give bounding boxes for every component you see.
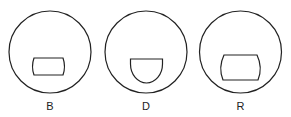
- label-d: D: [142, 100, 150, 112]
- pupil-shapes-diagram: B D R: [0, 0, 291, 117]
- figure-r: [200, 11, 282, 93]
- shape-barrel: [221, 55, 261, 80]
- label-b: B: [46, 100, 53, 112]
- figure-b: [9, 11, 91, 93]
- label-r: R: [237, 100, 245, 112]
- outer-circle-r: [200, 11, 282, 93]
- shape-semicircle: [131, 59, 163, 83]
- outer-circle-d: [105, 11, 187, 93]
- figure-d: [105, 11, 187, 93]
- outer-circle-b: [9, 11, 91, 93]
- shape-rounded-rectangle: [33, 58, 65, 75]
